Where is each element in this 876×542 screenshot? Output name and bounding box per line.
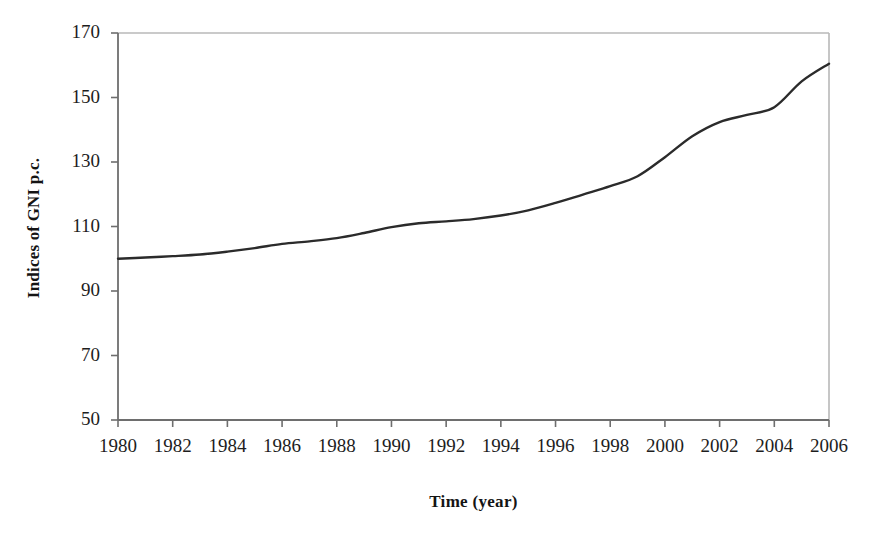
x-tick-label: 1994 xyxy=(471,436,531,455)
x-tick-label: 2006 xyxy=(799,436,859,455)
plot-frame xyxy=(118,33,829,420)
y-tick-label: 110 xyxy=(40,216,100,235)
y-axis-ticks xyxy=(111,33,118,420)
x-tick-label: 1980 xyxy=(88,436,148,455)
y-tick-label: 70 xyxy=(40,345,100,364)
x-tick-label: 1998 xyxy=(580,436,640,455)
x-tick-label: 1992 xyxy=(416,436,476,455)
chart-figure: Indices of GNI p.c. Time (year) 50709011… xyxy=(0,0,876,542)
y-tick-label: 170 xyxy=(40,22,100,41)
x-tick-label: 2002 xyxy=(690,436,750,455)
data-series-line xyxy=(118,64,829,259)
x-tick-label: 1984 xyxy=(197,436,257,455)
axis-lines xyxy=(118,33,829,420)
y-tick-label: 130 xyxy=(40,151,100,170)
x-tick-label: 1988 xyxy=(307,436,367,455)
x-tick-label: 1990 xyxy=(361,436,421,455)
x-tick-label: 1986 xyxy=(252,436,312,455)
y-tick-label: 50 xyxy=(40,409,100,428)
x-tick-label: 1982 xyxy=(143,436,203,455)
y-tick-label: 90 xyxy=(40,280,100,299)
x-tick-label: 1996 xyxy=(526,436,586,455)
x-tick-label: 2004 xyxy=(744,436,804,455)
x-axis-ticks xyxy=(118,420,829,427)
x-tick-label: 2000 xyxy=(635,436,695,455)
y-tick-label: 150 xyxy=(40,87,100,106)
plot-canvas xyxy=(0,0,876,542)
